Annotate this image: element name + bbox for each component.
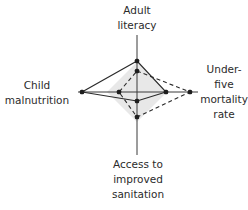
axis-label-under-five-mortality: Under- five mortality rate [198, 62, 248, 122]
label-line: Under- [198, 62, 248, 77]
data-point-marker [135, 115, 139, 119]
axis-label-child-malnutrition: Child malnutrition [0, 78, 74, 108]
axis-label-sanitation: Access to improved sanitation [98, 157, 178, 202]
label-line: improved [98, 172, 178, 187]
label-line: Access to [98, 157, 178, 172]
label-line: mortality [198, 92, 248, 107]
label-line: malnutrition [0, 93, 74, 108]
label-line: sanitation [98, 187, 178, 202]
data-point-marker [188, 90, 192, 94]
label-line: rate [198, 107, 248, 122]
label-line: literacy [105, 18, 169, 33]
data-point-marker [117, 90, 121, 94]
data-point-marker [164, 90, 168, 94]
label-line: Adult [105, 3, 169, 18]
axis-label-adult-literacy: Adult literacy [105, 3, 169, 33]
data-point-marker [135, 59, 139, 63]
data-point-marker [135, 99, 139, 103]
label-line: Child [0, 78, 74, 93]
data-point-marker [80, 90, 84, 94]
label-line: five [198, 77, 248, 92]
data-point-marker [135, 69, 139, 73]
